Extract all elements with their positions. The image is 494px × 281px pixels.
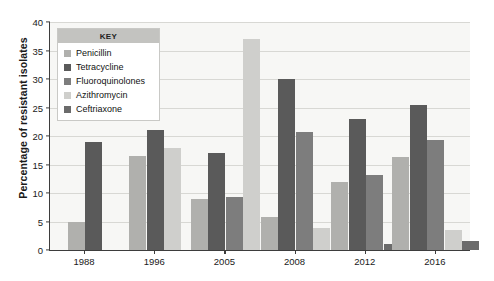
legend-item: Penicillin	[64, 46, 159, 60]
x-tick-label: 2012	[354, 256, 375, 267]
bar-chart-figure: Percentage of resistant isolates 0510152…	[0, 0, 494, 281]
y-tick-label: 30	[32, 74, 43, 85]
legend-swatch-icon	[64, 64, 71, 71]
bar	[392, 157, 409, 250]
legend-item: Tetracycline	[64, 60, 159, 74]
legend-items: PenicillinTetracyclineFluoroquinolonesAz…	[58, 43, 159, 120]
x-tick-label: 2016	[424, 256, 445, 267]
legend-item-label: Fluoroquinolones	[76, 76, 145, 86]
y-tick-label: 40	[32, 17, 43, 28]
y-tick-label: 0	[38, 245, 43, 256]
legend-swatch-icon	[64, 50, 71, 57]
x-tick-label: 1996	[144, 256, 165, 267]
legend-item: Fluoroquinolones	[64, 74, 159, 88]
y-axis-title: Percentage of resistant isolates	[17, 0, 29, 243]
x-tick-mark	[295, 250, 296, 254]
x-tick-mark	[84, 250, 85, 254]
x-tick-label: 1988	[74, 256, 95, 267]
legend-title: KEY	[58, 29, 159, 43]
bar	[462, 241, 479, 250]
x-axis-line	[49, 250, 470, 251]
legend-item-label: Tetracycline	[76, 62, 124, 72]
y-tick-label: 35	[32, 45, 43, 56]
legend-swatch-icon	[64, 78, 71, 85]
x-tick-mark	[154, 250, 155, 254]
legend-item: Azithromycin	[64, 88, 159, 102]
y-tick-label: 5	[38, 216, 43, 227]
y-tick-label: 25	[32, 102, 43, 113]
legend-swatch-icon	[64, 92, 71, 99]
y-tick-label: 15	[32, 159, 43, 170]
y-tick-label: 10	[32, 188, 43, 199]
bar	[427, 140, 444, 250]
x-tick-mark	[435, 250, 436, 254]
legend-item-label: Azithromycin	[76, 90, 128, 100]
legend-item-label: Penicillin	[76, 48, 112, 58]
chart-legend: KEY PenicillinTetracyclineFluoroquinolon…	[57, 28, 160, 121]
bar	[445, 230, 462, 250]
x-tick-mark	[365, 250, 366, 254]
y-tick-label: 20	[32, 131, 43, 142]
x-tick-label: 2008	[284, 256, 305, 267]
x-tick-mark	[224, 250, 225, 254]
bar	[410, 105, 427, 250]
legend-item: Ceftriaxone	[64, 102, 159, 116]
legend-swatch-icon	[64, 106, 71, 113]
x-tick-label: 2005	[214, 256, 235, 267]
legend-item-label: Ceftriaxone	[76, 104, 122, 114]
